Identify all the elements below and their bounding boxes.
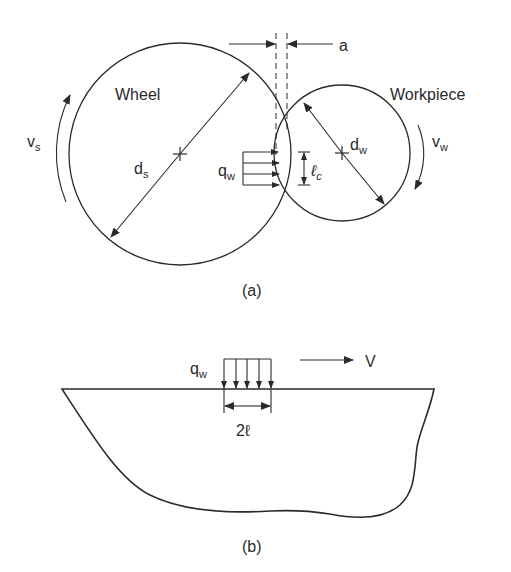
wheel-speed-label: vs — [27, 133, 41, 153]
figure-a-caption: (a) — [242, 282, 262, 299]
grinding-diagram: a qw ℓc Wheel Workpiece ds dw — [0, 0, 511, 572]
source-width-label: 2ℓ — [236, 422, 250, 439]
contact-length-indicator-icon — [298, 152, 310, 185]
workpiece-diameter-arrow-icon — [304, 103, 342, 153]
figure-b-caption: (b) — [242, 538, 262, 555]
figure-b: qw V 2ℓ (b) — [62, 353, 434, 555]
workpiece-speed-label: vw — [432, 133, 448, 153]
moving-heat-source-arrows-icon — [224, 359, 271, 388]
velocity-label: V — [365, 353, 376, 370]
wheel-diameter-label: ds — [134, 160, 149, 180]
wheel-rotation-arrow-icon — [56, 95, 70, 202]
heat-flux-label: qw — [218, 162, 235, 182]
semi-infinite-body-outline — [62, 389, 434, 517]
contact-length-label: ℓc — [310, 162, 322, 182]
wheel-diameter-arrow-icon — [180, 73, 249, 154]
heat-flux-label-b: qw — [190, 360, 207, 380]
figure-a: a qw ℓc Wheel Workpiece ds dw — [27, 33, 465, 299]
source-width-dimension-icon — [224, 389, 271, 413]
workpiece-rotation-arrow-icon — [415, 125, 424, 189]
workpiece-diameter-label: dw — [350, 136, 367, 156]
workpiece-label: Workpiece — [390, 86, 465, 103]
depth-of-cut-label: a — [339, 37, 348, 54]
wheel-label: Wheel — [115, 86, 160, 103]
